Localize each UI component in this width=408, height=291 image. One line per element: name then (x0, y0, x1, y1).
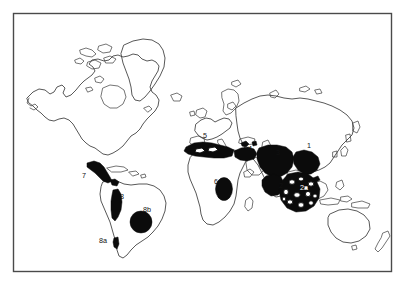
map-label-1: 1 (307, 141, 311, 150)
range-region-2a-speckle-2 (298, 177, 303, 181)
range-region-2a-speckle-10 (309, 201, 314, 205)
map-label-7: 7 (82, 171, 86, 180)
range-region-2a-speckle-3 (308, 182, 314, 186)
map-label-4: 4 (248, 144, 252, 153)
range-region-2a-speckle-4 (284, 189, 289, 195)
range-region-2a-speckle-8 (287, 200, 293, 204)
range-region-2a-speckle-5 (294, 193, 300, 198)
map-label-3: 3 (276, 148, 280, 157)
range-region-2a-speckle-12 (282, 197, 286, 201)
map-label-6: 6 (214, 177, 218, 186)
map-label-2: 2 (279, 181, 283, 190)
range-region-2a-speckle-7 (313, 194, 317, 198)
range-region-4-b (252, 141, 257, 146)
world-distribution-map-figure: 1 2 2a 3 4 5 6 7 8 8a 8b (0, 0, 408, 291)
range-region-2a-speckle-9 (298, 203, 304, 208)
range-region-2a-speckle-1 (289, 180, 295, 185)
range-region-8b (130, 211, 152, 233)
map-label-8: 8 (120, 192, 124, 201)
map-label-8b: 8b (143, 205, 151, 214)
range-region-2a-speckle-6 (305, 191, 310, 196)
range-region-6 (216, 178, 233, 201)
map-canvas: 1 2 2a 3 4 5 6 7 8 8a 8b (0, 0, 408, 291)
map-label-8a: 8a (99, 236, 107, 245)
map-label-2a: 2a (300, 183, 308, 192)
map-label-5: 5 (203, 131, 207, 140)
